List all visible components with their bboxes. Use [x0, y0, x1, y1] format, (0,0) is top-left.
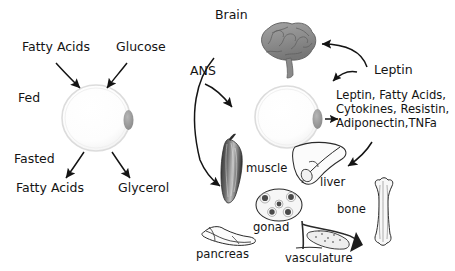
gonad-illustration [256, 189, 302, 221]
fed-input-arrows [56, 63, 127, 88]
label-leptin: Leptin [374, 63, 413, 78]
label-secreted-factors: Leptin, Fatty Acids, Cytokines, Resistin… [336, 88, 449, 130]
label-brain: Brain [215, 8, 248, 23]
label-pancreas: pancreas [196, 248, 249, 262]
label-fatty-acids-output: Fatty Acids [16, 181, 84, 196]
label-vasculature: vasculature [285, 252, 353, 266]
arrow-leptin-to-adipocyte [333, 71, 357, 81]
label-fed-state: Fed [18, 91, 40, 106]
label-liver: liver [320, 176, 345, 190]
pancreas-illustration [202, 227, 255, 246]
secreted-factors-line-1: Leptin, Fatty Acids, [336, 88, 449, 102]
label-ans: ANS [190, 64, 216, 79]
vasculature-illustration [296, 221, 363, 252]
secreted-factors-line-2: Cytokines, Resistin, [336, 102, 449, 116]
label-bone: bone [337, 203, 366, 217]
arrow-factors-to-liver [348, 142, 372, 166]
brain-illustration [262, 23, 316, 78]
fasted-output-arrows [66, 152, 130, 178]
label-glycerol-output: Glycerol [118, 181, 169, 196]
arrow-leptin-to-brain [322, 44, 367, 67]
label-fasted-state: Fasted [14, 152, 55, 167]
muscle-illustration [221, 134, 242, 203]
arrow-ans-to-adipocyte [205, 84, 232, 107]
label-glucose-input: Glucose [116, 40, 166, 55]
secreted-factors-line-3: Adiponectin,TNFa [336, 116, 449, 130]
label-gonad: gonad [253, 221, 289, 235]
label-muscle: muscle [246, 162, 287, 176]
label-fatty-acids-input: Fatty Acids [22, 40, 90, 55]
left-adipocyte [62, 85, 134, 151]
bone-illustration [375, 178, 393, 246]
right-adipocyte [255, 86, 323, 148]
diagram-canvas: Fatty Acids Glucose Fed Fasted Fatty Aci… [0, 0, 455, 271]
